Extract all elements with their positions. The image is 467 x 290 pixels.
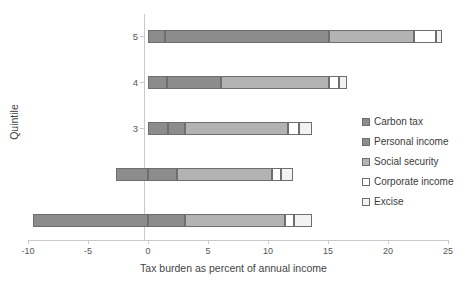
bar-segment[interactable] — [165, 30, 329, 43]
x-tick — [328, 240, 329, 244]
bar-segment[interactable] — [272, 168, 282, 181]
bar-segment[interactable] — [33, 214, 148, 227]
legend-item[interactable]: Carbon tax — [362, 116, 453, 127]
bar-segment[interactable] — [148, 214, 185, 227]
bar-segment[interactable] — [168, 122, 185, 135]
bar-segment[interactable] — [148, 122, 168, 135]
x-tick — [88, 240, 89, 244]
x-axis-title: Tax burden as percent of annual income — [0, 262, 467, 274]
bar-segment[interactable] — [148, 30, 165, 43]
bar-segment[interactable] — [436, 30, 442, 43]
x-tick — [388, 240, 389, 244]
bar-segment[interactable] — [329, 30, 414, 43]
legend-swatch-icon — [362, 198, 370, 206]
legend-label: Excise — [374, 196, 403, 207]
bar-segment[interactable] — [299, 122, 312, 135]
x-tick — [148, 240, 149, 244]
legend-swatch-icon — [362, 178, 370, 186]
bar-segment[interactable] — [177, 168, 272, 181]
legend-label: Corporate income — [374, 176, 453, 187]
legend-swatch-icon — [362, 158, 370, 166]
legend-item[interactable]: Corporate income — [362, 176, 453, 187]
legend-label: Social security — [374, 156, 438, 167]
bar-segment[interactable] — [148, 168, 177, 181]
bar-segment[interactable] — [414, 30, 436, 43]
legend-item[interactable]: Social security — [362, 156, 453, 167]
x-axis-line — [28, 240, 448, 241]
bar-row — [28, 76, 448, 89]
legend-item[interactable]: Excise — [362, 196, 453, 207]
bar-segment[interactable] — [221, 76, 329, 89]
bar-segment[interactable] — [281, 168, 293, 181]
bar-segment[interactable] — [339, 76, 347, 89]
bar-segment[interactable] — [288, 122, 299, 135]
bar-segment[interactable] — [148, 76, 167, 89]
legend-label: Personal income — [374, 136, 448, 147]
legend-item[interactable]: Personal income — [362, 136, 453, 147]
legend-label: Carbon tax — [374, 116, 423, 127]
x-tick — [448, 240, 449, 244]
y-axis-title: Quintile — [8, 62, 20, 182]
bar-segment[interactable] — [116, 168, 148, 181]
bar-row — [28, 30, 448, 43]
x-tick — [268, 240, 269, 244]
x-tick — [208, 240, 209, 244]
bar-segment[interactable] — [329, 76, 339, 89]
bar-segment[interactable] — [294, 214, 312, 227]
x-tick-label: -5 — [84, 246, 92, 256]
legend: Carbon taxPersonal incomeSocial security… — [362, 116, 453, 216]
x-tick-label: -10 — [21, 246, 34, 256]
chart-container: -10-50510152025 54321 Quintile Tax burde… — [0, 0, 467, 290]
x-tick-label: 0 — [145, 246, 150, 256]
x-tick-label: 25 — [443, 246, 453, 256]
legend-swatch-icon — [362, 138, 370, 146]
bar-segment[interactable] — [185, 214, 285, 227]
bar-segment[interactable] — [167, 76, 221, 89]
x-tick-label: 20 — [383, 246, 393, 256]
legend-swatch-icon — [362, 118, 370, 126]
x-tick — [28, 240, 29, 244]
x-tick-label: 15 — [323, 246, 333, 256]
bar-segment[interactable] — [285, 214, 295, 227]
x-tick-label: 10 — [263, 246, 273, 256]
x-tick-label: 5 — [205, 246, 210, 256]
bar-segment[interactable] — [185, 122, 288, 135]
